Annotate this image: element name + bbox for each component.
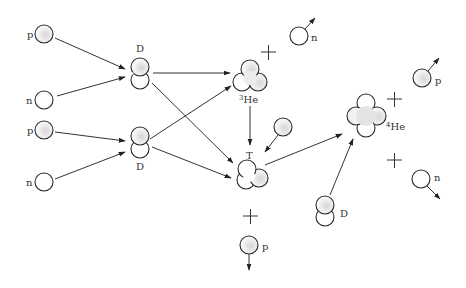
proton-out-1: p	[413, 58, 441, 87]
deuteron-3-label: D	[340, 208, 348, 219]
plus-sign	[261, 45, 276, 60]
arrow-p1-to-D1	[55, 38, 125, 69]
arrow-p2-to-D2	[55, 132, 125, 141]
neutron-2-label: n	[26, 177, 33, 188]
arrow-n2-to-D2	[55, 152, 125, 179]
deuteron-1: D	[131, 43, 149, 89]
neutron-out-1-label: n	[311, 32, 318, 43]
arrow-T-to-He4	[265, 134, 342, 165]
diagram-canvas: p n p n D D 3He	[0, 0, 466, 288]
deuteron-2-label: D	[136, 161, 144, 172]
arrow-proton-out	[428, 58, 439, 71]
proton-out-2: p	[240, 236, 268, 270]
arrow-D1-to-T	[152, 83, 233, 163]
proton-1: p	[27, 25, 53, 43]
deuteron-3: D	[316, 196, 348, 226]
arrow-n1-to-D1	[57, 77, 125, 96]
neutron-circle	[35, 173, 53, 191]
arrow-neutron-out	[427, 186, 440, 199]
plus-sign	[387, 92, 402, 107]
reaction-diagram: p n p n D D 3He	[0, 0, 466, 288]
proton-2: p	[27, 121, 53, 139]
arrow-p-to-T	[265, 135, 278, 152]
deuteron-1-label: D	[136, 43, 144, 54]
deuteron-2: D	[131, 127, 149, 172]
neutron-out-2: n	[412, 170, 441, 199]
proton-out-2-label: p	[262, 241, 268, 252]
helium-3: 3He	[233, 60, 267, 105]
helium-4: 4He	[347, 94, 405, 137]
arrow-neutron-out	[305, 18, 315, 29]
proton-in	[265, 118, 292, 152]
neutron-1: n	[26, 91, 53, 109]
tritium-label: T	[246, 150, 253, 161]
plus-sign	[387, 153, 402, 168]
proton-out-1-label: p	[435, 75, 441, 86]
neutron-out-1: n	[290, 18, 318, 45]
neutron-1-label: n	[26, 95, 33, 106]
proton-1-label: p	[27, 29, 33, 40]
proton-circle	[35, 121, 53, 139]
tritium: T	[237, 150, 268, 189]
neutron-2: n	[26, 173, 53, 191]
arrow-D2-to-T	[152, 147, 231, 178]
neutron-circle	[35, 91, 53, 109]
proton-2-label: p	[27, 125, 33, 136]
arrow-D3-to-He4	[330, 139, 353, 195]
neutron-out-2-label: n	[434, 172, 441, 183]
arrow-D2-to-He3	[150, 86, 231, 139]
proton-circle	[35, 25, 53, 43]
helium-3-label: 3He	[239, 94, 258, 105]
plus-sign	[243, 209, 258, 224]
helium-4-label: 4He	[386, 121, 405, 132]
